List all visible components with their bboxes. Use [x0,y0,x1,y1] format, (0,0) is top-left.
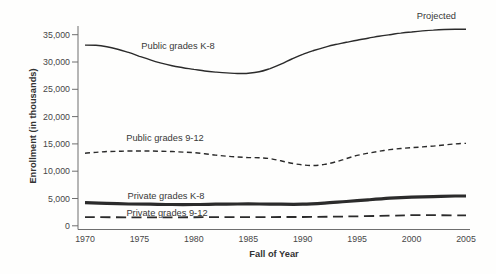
enrollment-line-chart: 05,00010,00015,00020,00025,00030,00035,0… [0,0,496,274]
x-tick-label: 1985 [238,234,258,244]
series-label-private-grades-9-12: Private grades 9-12 [126,208,207,218]
series-label-public-grades-9-12: Public grades 9-12 [126,133,204,143]
series-label-private-grades-k-8: Private grades K-8 [128,191,205,201]
y-axis-title: Enrollment (in thousands) [28,68,38,183]
x-tick-label: 1990 [293,234,313,244]
series-line-public-grades-k-8 [85,29,466,73]
x-tick-label: 2000 [402,234,422,244]
x-tick-label: 1995 [347,234,367,244]
y-tick-label: 30,000 [43,57,70,67]
y-tick-label: 20,000 [43,112,70,122]
x-tick-label: 2005 [456,234,476,244]
x-tick-label: 1975 [130,234,150,244]
y-tick-label: 15,000 [43,139,70,149]
projected-annotation: Projected [417,11,456,21]
y-tick-label: 35,000 [43,30,70,40]
series-label-public-grades-k-8: Public grades K-8 [141,41,214,51]
y-tick-label: 10,000 [43,166,70,176]
x-tick-label: 1970 [75,234,95,244]
x-axis-title: Fall of Year [249,249,299,259]
x-tick-label: 1980 [184,234,204,244]
y-tick-label: 0 [65,221,70,231]
y-tick-label: 25,000 [43,84,70,94]
chart-canvas: 05,00010,00015,00020,00025,00030,00035,0… [0,0,496,274]
series-line-public-grades-9-12 [85,143,466,165]
y-tick-label: 5,000 [48,194,70,204]
